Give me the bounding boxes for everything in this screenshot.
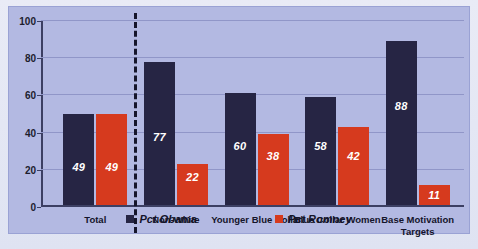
y-tick-label-80: 80 bbox=[25, 53, 36, 64]
bar-pct-obama: 88 bbox=[386, 41, 417, 205]
y-tick-mark-60 bbox=[37, 95, 41, 96]
y-tick-mark-20 bbox=[37, 170, 41, 171]
bar-pct-romney: 49 bbox=[96, 114, 127, 205]
bar-value-label: 77 bbox=[144, 131, 175, 143]
chart-frame: 020406080100 4949Total7722Non-White6038Y… bbox=[0, 0, 478, 249]
y-tick-label-20: 20 bbox=[25, 164, 36, 175]
bar-value-label: 22 bbox=[177, 171, 208, 183]
legend-item-pct-obama[interactable]: Pct Obama bbox=[126, 213, 196, 225]
bar-value-label: 88 bbox=[386, 100, 417, 112]
legend-swatch-icon bbox=[275, 215, 283, 223]
y-tick-mark-80 bbox=[37, 58, 41, 59]
bar-value-label: 38 bbox=[258, 150, 289, 162]
legend-item-pct-romney[interactable]: Pct Romney bbox=[275, 213, 352, 225]
bar-value-label: 11 bbox=[419, 189, 450, 201]
bar-pct-romney: 22 bbox=[177, 164, 208, 205]
bar-value-label: 42 bbox=[338, 150, 369, 162]
bar-value-label: 49 bbox=[63, 161, 94, 173]
bar-pct-obama: 58 bbox=[305, 97, 336, 205]
x-axis-line bbox=[41, 205, 464, 207]
section-divider-dashed bbox=[134, 13, 137, 233]
bar-group: 8811Base MotivationTargets bbox=[386, 21, 450, 205]
bar-pct-romney: 38 bbox=[258, 134, 289, 205]
legend-swatch-icon bbox=[126, 215, 134, 223]
y-axis-line bbox=[41, 21, 43, 207]
legend-label: Pct Obama bbox=[139, 213, 196, 225]
y-tick-mark-40 bbox=[37, 133, 41, 134]
bar-value-label: 49 bbox=[96, 161, 127, 173]
y-tick-mark-100 bbox=[37, 21, 41, 22]
y-tick-label-60: 60 bbox=[25, 90, 36, 101]
bar-pct-obama: 49 bbox=[63, 114, 94, 205]
bar-group: 6038Younger Blue Collar bbox=[225, 21, 289, 205]
bar-pct-romney: 11 bbox=[419, 185, 450, 205]
bar-pct-obama: 77 bbox=[144, 62, 175, 205]
y-tick-label-0: 0 bbox=[30, 202, 36, 213]
bar-group: 7722Non-White bbox=[144, 21, 208, 205]
chart-legend: Pct ObamaPct Romney bbox=[9, 213, 469, 225]
bar-pct-romney: 42 bbox=[338, 127, 369, 205]
bar-group: 4949Total bbox=[63, 21, 127, 205]
legend-label: Pct Romney bbox=[288, 213, 352, 225]
plot-area: 020406080100 4949Total7722Non-White6038Y… bbox=[41, 21, 464, 207]
y-tick-label-40: 40 bbox=[25, 127, 36, 138]
bar-value-label: 60 bbox=[225, 140, 256, 152]
chart-card: 020406080100 4949Total7722Non-White6038Y… bbox=[8, 6, 470, 234]
bar-value-label: 58 bbox=[305, 140, 336, 152]
bar-pct-obama: 60 bbox=[225, 93, 256, 205]
bar-group: 5842Blue Collar Women bbox=[305, 21, 369, 205]
y-tick-label-100: 100 bbox=[19, 16, 36, 27]
y-tick-mark-0 bbox=[37, 207, 41, 208]
